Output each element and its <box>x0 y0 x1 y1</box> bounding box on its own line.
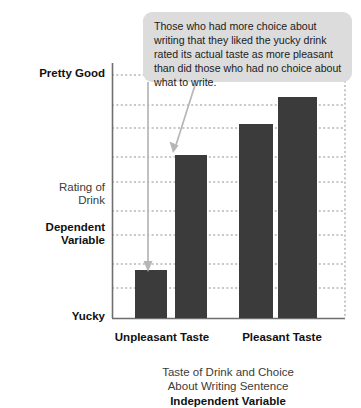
y-axis-label-middle-strong: Dependent Variable <box>0 221 105 247</box>
bar-unpleasant-choice <box>175 155 207 318</box>
bar-pleasant-choice <box>278 97 317 318</box>
y-axis-label-middle: Rating of Drink Dependent Variable <box>0 168 105 261</box>
y-axis-label-middle-plain: Rating of Drink <box>0 181 105 207</box>
y-axis-label-top: Pretty Good <box>0 67 105 80</box>
x-axis-title: Taste of Drink and Choice About Writing … <box>95 365 361 408</box>
x-axis-title-strong: Independent Variable <box>95 394 361 408</box>
bar-pleasant-no-choice <box>239 124 273 318</box>
x-axis-category-unpleasant: Unpleasant Taste <box>113 331 211 345</box>
annotation-callout: Those who had more choice about writing … <box>143 12 352 82</box>
x-axis-title-plain: Taste of Drink and Choice About Writing … <box>162 366 294 392</box>
bars <box>135 97 317 318</box>
bar-unpleasant-no-choice <box>135 270 167 318</box>
y-axis-label-bottom: Yucky <box>0 310 105 323</box>
annotation-arrow-right-shaft <box>176 82 196 145</box>
x-axis-category-pleasant: Pleasant Taste <box>216 331 348 345</box>
